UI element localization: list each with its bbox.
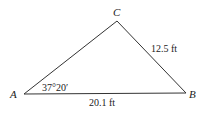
vertex-label-b: B [189,88,196,100]
vertex-label-a: A [9,88,17,100]
side-label-ab: 20.1 ft [89,97,115,108]
vertex-label-c: C [113,6,121,18]
triangle-diagram: A B C 12.5 ft 20.1 ft 37°20′ [0,0,205,116]
angle-label-a: 37°20′ [42,82,68,93]
side-label-bc: 12.5 ft [151,43,177,54]
